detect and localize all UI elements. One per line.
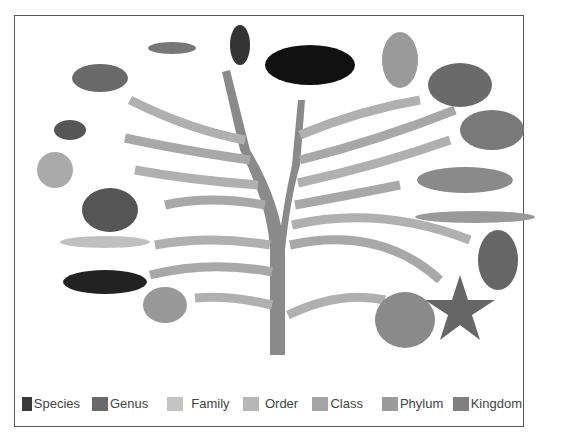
legend-item-genus: Genus: [92, 397, 167, 411]
bristle-worm-icon: [60, 236, 150, 248]
cat-icon: [265, 45, 355, 85]
centipede-icon: [148, 42, 196, 54]
sea-squirt-icon: [478, 230, 518, 290]
class-swatch: [312, 397, 328, 411]
jellyfish-icon: [143, 287, 187, 323]
lancelet-icon: [415, 211, 535, 223]
genus-swatch: [92, 397, 108, 411]
crab-icon: [72, 64, 128, 92]
order-swatch: [243, 397, 259, 411]
legend: Species Genus Family Order Class Phylum …: [22, 392, 522, 416]
fan-worm-icon: [37, 152, 73, 188]
legend-label: Kingdom: [471, 397, 522, 411]
species-swatch: [22, 397, 32, 411]
legend-item-class: Class: [312, 397, 382, 411]
legend-item-phylum: Phylum: [382, 397, 445, 411]
legend-item-kingdom: Kingdom: [453, 397, 522, 411]
trunk-left: [222, 70, 285, 355]
legend-item-species: Species: [22, 397, 80, 411]
sea-cucumber-icon: [63, 270, 147, 294]
legend-item-order: Order: [243, 397, 313, 411]
legend-item-family: Family: [167, 397, 233, 411]
kingdom-swatch: [453, 397, 469, 411]
frog-icon: [460, 110, 524, 150]
legend-label: Species: [34, 397, 80, 411]
bird-icon: [382, 32, 418, 88]
left-branches: [125, 100, 272, 305]
family-swatch: [167, 397, 183, 411]
legend-label: Class: [330, 397, 363, 411]
legend-label: Genus: [110, 397, 148, 411]
right-branches: [288, 100, 470, 315]
starfish-icon: [425, 275, 495, 340]
sponge-icon: [375, 292, 435, 348]
fish-icon: [417, 167, 513, 193]
spider-icon: [54, 120, 86, 140]
legend-label: Order: [265, 397, 298, 411]
beetle-icon: [230, 25, 250, 65]
snail-icon: [82, 188, 138, 232]
legend-label: Phylum: [400, 397, 443, 411]
legend-label: Family: [191, 397, 229, 411]
phylum-swatch: [382, 397, 398, 411]
tortoise-icon: [428, 63, 492, 107]
organisms: [37, 25, 535, 348]
taxonomy-tree: [0, 0, 561, 448]
